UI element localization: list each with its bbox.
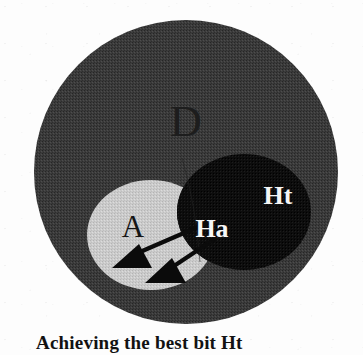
venn-diagram-svg: D A Ht Ha [0,0,363,335]
set-label-Ha: Ha [195,214,228,243]
set-label-Ht: Ht [264,181,293,210]
figure-root: D A Ht Ha Achieving the best bit Ht [0,0,363,355]
venn-diagram-stage: D A Ht Ha [0,0,363,335]
set-label-D: D [170,97,202,146]
figure-caption: Achieving the best bit Ht [0,336,363,355]
figure-caption-text: Achieving the best bit Ht [36,336,243,354]
set-label-A: A [122,209,145,244]
